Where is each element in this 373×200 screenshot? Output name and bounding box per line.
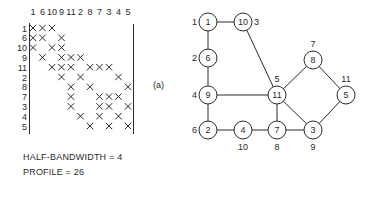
matrix-row-label: 4	[22, 112, 27, 122]
matrix-column-label: 4	[116, 7, 121, 17]
graph-node: 62	[192, 49, 217, 67]
sparsity-matrix: 16109112873451610911287345	[17, 7, 134, 134]
node-id-label: 6	[205, 53, 210, 63]
graph-node: 94	[192, 86, 217, 104]
matrix-entry-x	[30, 35, 36, 41]
matrix-column-label: 2	[78, 7, 83, 17]
graph-node: 115	[268, 74, 286, 104]
matrix-entry-x	[49, 25, 55, 31]
node-id-label: 8	[310, 55, 315, 65]
matrix-entry-x	[77, 74, 83, 80]
matrix-entry-x	[125, 123, 131, 129]
node-id-label: 1	[205, 17, 210, 27]
graph-edge	[243, 22, 277, 95]
matrix-entry-x	[39, 35, 45, 41]
profile-label: PROFILE = 26	[23, 167, 84, 177]
matrix-entry-x	[30, 25, 36, 31]
node-order-label: 3	[254, 17, 259, 27]
node-id-label: 4	[240, 125, 245, 135]
matrix-row-label: 9	[22, 53, 27, 63]
matrix-entry-x	[96, 113, 102, 119]
matrix-entry-x	[96, 93, 102, 99]
matrix-entry-x	[68, 84, 74, 90]
matrix-column-label: 1	[30, 7, 35, 17]
graph-diagram: 11103629411587511264107839	[192, 13, 355, 152]
matrix-entry-x	[125, 103, 131, 109]
matrix-entry-x	[58, 54, 64, 60]
node-order-label: 9	[310, 142, 315, 152]
node-order-label: 5	[274, 74, 279, 84]
matrix-entry-x	[87, 64, 93, 70]
matrix-entry-x	[106, 103, 112, 109]
node-id-label: 5	[343, 90, 348, 100]
matrix-entry-x	[115, 113, 121, 119]
matrix-entry-x	[106, 64, 112, 70]
graph-node: 39	[304, 121, 322, 152]
matrix-entry-x	[77, 113, 83, 119]
matrix-entry-x	[115, 74, 121, 80]
matrix-entry-x	[58, 35, 64, 41]
node-order-label: 11	[341, 74, 350, 84]
node-order-label: 7	[310, 39, 315, 49]
matrix-entry-x	[49, 64, 55, 70]
matrix-entry-x	[77, 54, 83, 60]
matrix-entry-x	[39, 54, 45, 60]
graph-node: 87	[304, 39, 322, 69]
matrix-entry-x	[68, 93, 74, 99]
node-id-label: 9	[205, 90, 210, 100]
matrix-entry-x	[49, 44, 55, 50]
matrix-row-label: 10	[17, 43, 27, 53]
matrix-row-label: 8	[22, 82, 27, 92]
matrix-row-label: 7	[22, 92, 27, 102]
node-order-label: 2	[192, 53, 197, 63]
matrix-column-label: 8	[87, 7, 92, 17]
node-id-label: 10	[238, 17, 248, 27]
matrix-column-label: 11	[66, 7, 75, 17]
graph-node: 103	[234, 13, 259, 31]
node-id-label: 7	[274, 125, 279, 135]
node-id-label: 3	[310, 125, 315, 135]
matrix-entry-x	[96, 64, 102, 70]
matrix-entry-x	[115, 93, 121, 99]
matrix-entry-x	[87, 84, 93, 90]
matrix-entry-x	[68, 103, 74, 109]
graph-node: 26	[192, 121, 217, 139]
matrix-column-label: 7	[97, 7, 102, 17]
graph-node: 78	[268, 121, 286, 152]
graph-node: 511	[337, 74, 355, 104]
node-id-label: 11	[272, 90, 281, 100]
node-order-label: 1	[192, 17, 197, 27]
matrix-row-label: 6	[22, 33, 27, 43]
matrix-entry-x	[58, 64, 64, 70]
graph-node: 11	[192, 13, 217, 31]
node-order-label: 8	[274, 142, 279, 152]
matrix-row-label: 2	[22, 73, 27, 83]
node-order-label: 4	[192, 90, 197, 100]
matrix-entry-x	[68, 54, 74, 60]
matrix-entry-x	[39, 25, 45, 31]
matrix-entry-x	[125, 84, 131, 90]
matrix-column-label: 5	[125, 7, 130, 17]
matrix-column-label: 10	[47, 7, 57, 17]
matrix-row-label: 3	[22, 102, 27, 112]
matrix-row-label: 5	[22, 122, 27, 132]
panel-label: (a)	[153, 80, 164, 90]
matrix-row-label: 11	[18, 63, 27, 73]
matrix-entry-x	[58, 74, 64, 80]
matrix-entry-x	[106, 93, 112, 99]
matrix-entry-x	[96, 103, 102, 109]
matrix-entry-x	[58, 44, 64, 50]
node-order-label: 6	[192, 125, 197, 135]
matrix-entry-x	[87, 123, 93, 129]
matrix-column-label: 3	[106, 7, 111, 17]
matrix-entry-x	[68, 64, 74, 70]
node-order-label: 10	[238, 142, 248, 152]
half-bandwidth-label: HALF-BANDWIDTH = 4	[23, 152, 122, 162]
matrix-column-label: 9	[59, 7, 64, 17]
matrix-row-label: 1	[22, 24, 27, 34]
matrix-entry-x	[30, 44, 36, 50]
node-id-label: 2	[205, 125, 210, 135]
matrix-column-label: 6	[40, 7, 45, 17]
graph-node: 410	[234, 121, 252, 152]
matrix-entry-x	[106, 123, 112, 129]
